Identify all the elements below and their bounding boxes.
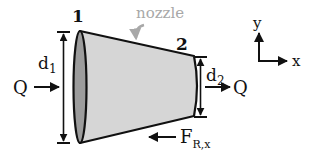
nozzle-diagram: 1 2 nozzle d1 d2 Q Q FR,x y x xyxy=(0,0,312,154)
d2-label: d2 xyxy=(206,65,225,88)
d1-label: d1 xyxy=(38,53,57,76)
outlet-section-label: 2 xyxy=(176,34,188,54)
y-axis-label: y xyxy=(252,14,262,32)
x-axis-label: x xyxy=(292,52,301,70)
outlet-flow-label: Q xyxy=(233,77,248,98)
inlet-flow-label: Q xyxy=(13,77,28,98)
inlet-section-label: 1 xyxy=(72,6,84,26)
nozzle-leader-arrow xyxy=(136,25,144,38)
nozzle-label: nozzle xyxy=(136,4,184,22)
reaction-force-label: FR,x xyxy=(180,126,211,151)
inlet-face xyxy=(74,31,87,143)
coordinate-axes xyxy=(258,33,287,62)
